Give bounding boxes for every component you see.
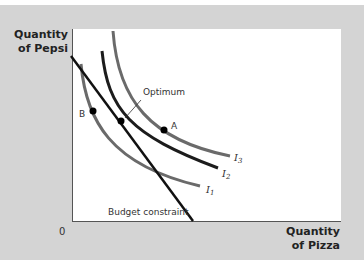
point-b-label: B (79, 109, 85, 119)
point-b (90, 108, 97, 115)
budget-constraint-label: Budget constraint (108, 207, 189, 217)
i1-label: I1 (205, 184, 214, 197)
point-a (161, 127, 168, 134)
point-optimum (118, 118, 125, 125)
i3-label: I3 (233, 152, 243, 165)
i2-label: I2 (221, 168, 231, 181)
point-a-label: A (171, 121, 178, 131)
indifference-curve-i1 (81, 64, 200, 186)
optimum-label: Optimum (143, 87, 185, 97)
chart-svg: Optimum A B Budget constraint I3 I2 I1 (0, 0, 364, 260)
